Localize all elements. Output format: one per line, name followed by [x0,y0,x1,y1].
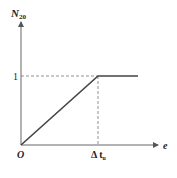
origin-label: O [17,149,24,160]
chart: N20 1 O Δ tu e [0,0,177,178]
x-tick-label: Δ tu [91,149,107,161]
y-tick-label: 1 [13,71,18,82]
x-axis-label: e [163,140,168,151]
y-axis-label: N20 [10,7,26,21]
series-line [21,76,138,145]
